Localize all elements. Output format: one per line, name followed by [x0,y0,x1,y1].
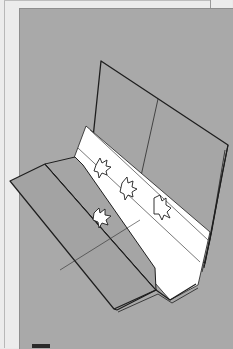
corner-marker [32,344,50,348]
